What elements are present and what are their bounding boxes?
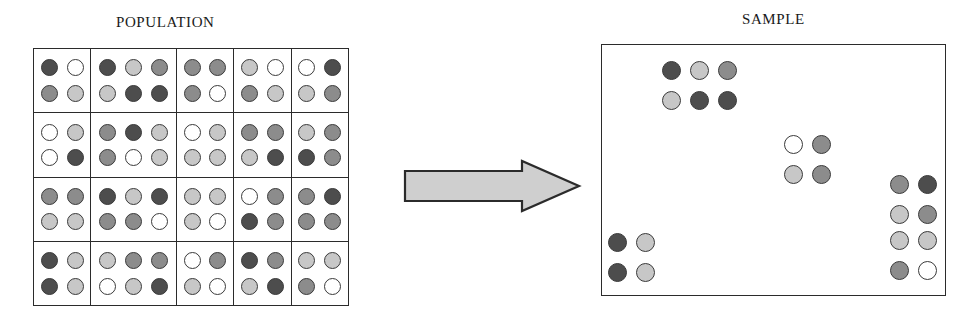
cluster-cell-r2c5	[292, 113, 348, 176]
cluster-cell-r3c2	[91, 178, 177, 241]
cluster-unit-row	[234, 188, 290, 205]
cluster-unit-row	[234, 213, 290, 230]
population-grid	[33, 48, 349, 306]
cluster-unit-row	[34, 188, 90, 205]
cluster-unit-row	[177, 278, 233, 295]
unit-disc-mid	[267, 213, 284, 230]
unit-disc-light	[151, 124, 168, 141]
transformation-arrow-icon	[402, 158, 582, 214]
unit-disc-white	[298, 59, 315, 76]
cluster-unit-row	[91, 149, 176, 166]
unit-disc-dark	[41, 59, 58, 76]
unit-disc-mid	[324, 85, 341, 102]
cluster-unit-row	[234, 124, 290, 141]
unit-disc-mid	[241, 124, 258, 141]
unit-disc-dark	[298, 149, 315, 166]
unit-disc-light	[184, 213, 201, 230]
unit-disc-dark	[151, 188, 168, 205]
cluster-unit-row	[177, 85, 233, 102]
cluster-unit-row	[234, 85, 290, 102]
unit-disc-light	[784, 165, 803, 184]
cluster-unit-row	[34, 278, 90, 295]
unit-disc-mid	[298, 278, 315, 295]
unit-disc-dark	[41, 278, 58, 295]
unit-disc-white	[209, 278, 226, 295]
unit-disc-light	[209, 188, 226, 205]
unit-disc-mid	[812, 165, 831, 184]
sample-label: SAMPLE	[742, 11, 805, 28]
cluster-cell-r4c2	[91, 242, 177, 305]
unit-disc-mid	[184, 59, 201, 76]
unit-disc-light	[184, 188, 201, 205]
cluster-cell-r4c1	[34, 242, 91, 305]
unit-disc-light	[662, 91, 681, 110]
unit-disc-mid	[324, 124, 341, 141]
unit-disc-light	[298, 85, 315, 102]
cluster-unit-row	[292, 188, 348, 205]
unit-disc-white	[125, 149, 142, 166]
unit-disc-mid	[209, 59, 226, 76]
cluster-unit-row	[34, 252, 90, 269]
unit-disc-white	[184, 252, 201, 269]
unit-disc-light	[209, 149, 226, 166]
unit-disc-mid	[99, 124, 116, 141]
cluster-cell-r1c5	[292, 49, 348, 112]
unit-disc-white	[151, 213, 168, 230]
cluster-unit-row	[292, 252, 348, 269]
unit-disc-mid	[67, 188, 84, 205]
unit-disc-dark	[267, 278, 284, 295]
unit-disc-light	[890, 205, 909, 224]
unit-disc-light	[99, 252, 116, 269]
unit-disc-mid	[151, 252, 168, 269]
unit-disc-light	[67, 252, 84, 269]
unit-disc-mid	[209, 252, 226, 269]
unit-disc-light	[298, 252, 315, 269]
cluster-cell-r3c5	[292, 178, 348, 241]
cluster-cell-r2c4	[234, 113, 291, 176]
unit-disc-mid	[812, 135, 831, 154]
cluster-unit-row	[292, 213, 348, 230]
cluster-unit-row	[34, 149, 90, 166]
unit-disc-white	[99, 278, 116, 295]
unit-disc-light	[41, 213, 58, 230]
unit-disc-light	[690, 61, 709, 80]
unit-disc-dark	[690, 91, 709, 110]
unit-disc-light	[209, 124, 226, 141]
cluster-unit-row	[177, 124, 233, 141]
arrow-shape	[405, 161, 579, 211]
unit-disc-light	[636, 263, 655, 282]
cluster-unit-row	[234, 149, 290, 166]
unit-disc-mid	[298, 213, 315, 230]
cluster-unit-row	[292, 124, 348, 141]
cluster-cell-r2c1	[34, 113, 91, 176]
unit-disc-light	[918, 231, 937, 250]
cluster-unit-row	[34, 213, 90, 230]
unit-disc-light	[125, 59, 142, 76]
unit-disc-dark	[718, 91, 737, 110]
unit-disc-mid	[918, 205, 937, 224]
unit-disc-dark	[241, 252, 258, 269]
unit-disc-white	[267, 59, 284, 76]
cluster-unit-row	[91, 85, 176, 102]
unit-disc-light	[636, 233, 655, 252]
cluster-unit-row	[292, 59, 348, 76]
cluster-unit-row	[91, 213, 176, 230]
unit-disc-light	[184, 278, 201, 295]
unit-disc-dark	[267, 149, 284, 166]
cluster-cell-r3c4	[234, 178, 291, 241]
unit-disc-mid	[151, 59, 168, 76]
cluster-unit-row	[34, 59, 90, 76]
cluster-unit-row	[34, 124, 90, 141]
unit-disc-dark	[125, 124, 142, 141]
unit-disc-mid	[718, 61, 737, 80]
unit-disc-mid	[324, 213, 341, 230]
unit-disc-dark	[662, 61, 681, 80]
cluster-unit-row	[91, 252, 176, 269]
unit-disc-mid	[99, 149, 116, 166]
cluster-cell-r1c3	[177, 49, 234, 112]
sample-box	[601, 44, 946, 296]
unit-disc-mid	[99, 213, 116, 230]
unit-disc-mid	[41, 188, 58, 205]
cluster-unit-row	[91, 124, 176, 141]
cluster-unit-row	[234, 59, 290, 76]
